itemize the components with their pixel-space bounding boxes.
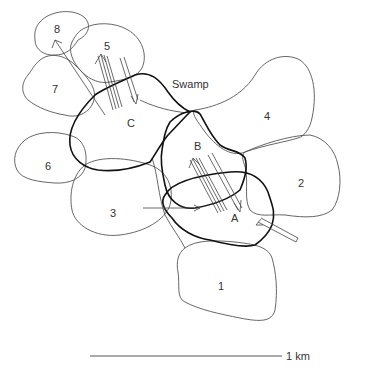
label-range-5: 5: [104, 40, 110, 52]
label-swamp: Swamp: [172, 78, 209, 90]
arrow-8-shaft: [55, 40, 105, 115]
home-range-map: Swamp 8 5 7 C 4 B 6 2 3 A 1 1 km: [0, 0, 368, 369]
scale-bar-label: 1 km: [286, 350, 310, 362]
range-5-outline: [70, 24, 144, 83]
label-range-8: 8: [54, 23, 60, 35]
label-range-1: 1: [218, 280, 224, 292]
range-2-outline: [243, 135, 340, 217]
range-extension-outline: [152, 158, 185, 248]
label-range-3: 3: [110, 207, 116, 219]
label-range-B: B: [194, 140, 201, 152]
label-range-C: C: [127, 117, 135, 129]
range-A-outline: [163, 172, 274, 246]
range-B-outline: [161, 111, 246, 208]
range-1-outline: [177, 241, 276, 321]
label-range-7: 7: [52, 83, 58, 95]
label-range-2: 2: [298, 177, 304, 189]
label-range-4: 4: [264, 110, 270, 122]
label-range-6: 6: [45, 160, 51, 172]
range-4-outline: [193, 56, 314, 153]
arrow-8-head: [52, 40, 62, 48]
label-range-A: A: [231, 212, 239, 224]
range-8-outline: [35, 12, 89, 56]
